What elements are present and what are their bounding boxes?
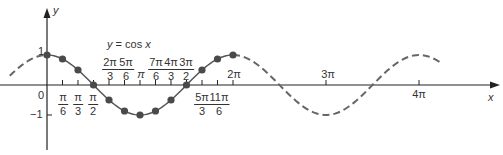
data-point	[59, 55, 66, 62]
cosine-chart	[0, 0, 503, 155]
data-point	[167, 96, 174, 103]
denominator: 6	[216, 105, 222, 117]
numerator: 7π	[148, 57, 164, 70]
denominator: 2	[183, 70, 189, 82]
data-point	[121, 107, 128, 114]
y-axis-arrow-icon	[44, 8, 51, 18]
data-point	[214, 55, 221, 62]
numerator: π	[73, 92, 83, 105]
tick-label-pi: π	[137, 69, 144, 80]
title-x: x	[145, 38, 151, 50]
data-point	[74, 66, 81, 73]
y-tick-label-neg-one: −1	[30, 109, 43, 120]
x-axis-arrow-icon	[490, 82, 500, 89]
origin-label: 0	[38, 90, 44, 101]
denominator: 3	[75, 105, 81, 117]
denominator: 3	[199, 105, 205, 117]
numerator: π	[88, 92, 98, 105]
data-point	[136, 111, 143, 118]
data-point	[152, 107, 159, 114]
tick-label-3pi: 3π	[321, 69, 335, 80]
title-y: y	[107, 38, 113, 50]
denominator: 6	[60, 105, 66, 117]
tick-label-4pi: 4π	[412, 89, 426, 100]
y-axis-label: y	[53, 5, 59, 16]
tick-label-3pi-2: 3π 2	[178, 57, 194, 82]
tick-label-4pi-3: 4π 3	[163, 57, 179, 82]
title-equals: =	[116, 38, 122, 50]
tick-label-pi-6: π 6	[58, 92, 68, 117]
numerator: 4π	[163, 57, 179, 70]
tick-label-2pi: 2π	[227, 69, 241, 80]
data-point	[43, 51, 50, 58]
x-axis-label: x	[488, 92, 494, 103]
data-point	[105, 96, 112, 103]
numerator: 2π	[102, 57, 118, 70]
data-point	[90, 81, 97, 88]
denominator: 3	[107, 70, 113, 82]
denominator: 6	[123, 70, 129, 82]
dashed-curve-left	[10, 55, 47, 76]
denominator: 3	[168, 70, 174, 82]
data-point	[183, 81, 190, 88]
denominator: 6	[153, 70, 159, 82]
data-point	[229, 51, 236, 58]
chart-title: y = cos x	[107, 38, 151, 50]
numerator: 5π	[118, 57, 134, 70]
data-point	[198, 66, 205, 73]
tick-label-7pi-6: 7π 6	[148, 57, 164, 82]
tick-label-pi-3: π 3	[73, 92, 83, 117]
numerator: 11π	[208, 92, 229, 105]
title-cos: cos	[125, 38, 142, 50]
tick-label-11pi-6: 11π 6	[208, 92, 229, 117]
tick-label-2pi-3: 2π 3	[102, 57, 118, 82]
numerator: 3π	[178, 57, 194, 70]
tick-label-5pi-6: 5π 6	[118, 57, 134, 82]
tick-label-pi-2: π 2	[88, 92, 98, 117]
denominator: 2	[90, 105, 96, 117]
numerator: π	[58, 92, 68, 105]
y-tick-label-one: 1	[38, 46, 44, 57]
